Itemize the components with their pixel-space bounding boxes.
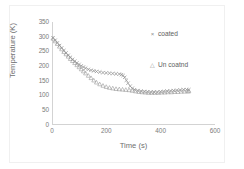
x-tick-label: 200 [93, 128, 119, 134]
y-tick-label: 250 [23, 48, 49, 54]
x-axis-tick-labels: 0200400600 [52, 128, 215, 138]
legend-entry-1: ×coated [148, 24, 222, 34]
triangle-marker-icon: △ [148, 61, 157, 68]
legend-label: Un coatnd [157, 61, 188, 68]
cross-marker-icon: × [148, 31, 157, 37]
y-tick-label: 350 [23, 19, 49, 25]
y-tick-label: 200 [23, 63, 49, 69]
x-axis-title: Time (s) [52, 141, 215, 150]
chart-figure: 050100150200250300350 0200400600 Time (s… [0, 0, 244, 169]
x-tick-label: 400 [148, 128, 174, 134]
y-axis-title: Temperature (K) [8, 3, 17, 99]
y-axis-tick-labels: 050100150200250300350 [22, 22, 49, 125]
y-tick-label: 150 [23, 78, 49, 84]
y-tick-label: 50 [23, 107, 49, 113]
x-tick-label: 600 [202, 128, 228, 134]
chart-legend: ×coated△Un coatnd [148, 24, 222, 86]
legend-label: coated [157, 30, 178, 37]
y-tick-label: 100 [23, 92, 49, 98]
y-tick-label: 300 [23, 34, 49, 40]
x-tick-label: 0 [39, 128, 65, 134]
legend-entry-2: △Un coatnd [148, 55, 222, 65]
